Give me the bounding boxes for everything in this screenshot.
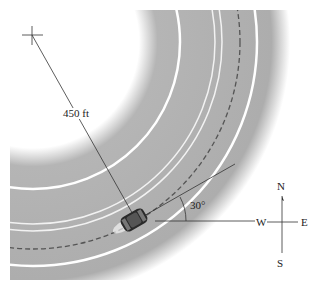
compass-east-label: E xyxy=(301,217,308,228)
road xyxy=(0,0,310,280)
compass-south-label: S xyxy=(277,258,283,269)
radius-label: 450 ft xyxy=(62,108,90,119)
angle-label: 30° xyxy=(190,200,205,211)
compass-north-label: N xyxy=(277,181,285,192)
compass-west-label: W xyxy=(255,217,267,228)
curved-road-diagram xyxy=(0,0,319,287)
